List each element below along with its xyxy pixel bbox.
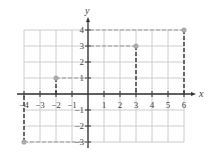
x-tick-label: 4 (150, 100, 155, 110)
x-tick-label: 6 (182, 100, 187, 110)
coordinate-plane-chart: xy−4−3−2−11234564321−1−2−3 (0, 0, 208, 157)
x-axis-arrow-icon (191, 92, 196, 96)
y-tick-label: −2 (74, 121, 84, 131)
data-point (53, 75, 58, 80)
x-tick-label: −2 (51, 100, 61, 110)
x-tick-label: −3 (35, 100, 45, 110)
x-tick-label: 3 (134, 100, 139, 110)
x-tick-label: 5 (166, 100, 171, 110)
x-tick-label: 1 (102, 100, 107, 110)
x-tick-label: 2 (118, 100, 123, 110)
data-point (133, 43, 138, 48)
y-tick-label: 3 (80, 41, 85, 51)
data-point (181, 27, 186, 32)
y-axis-arrow-icon (86, 17, 90, 22)
data-point (21, 139, 26, 144)
y-tick-label: 4 (80, 25, 85, 35)
y-tick-label: 2 (80, 57, 85, 67)
x-axis-label: x (198, 88, 204, 99)
y-axis-label: y (84, 5, 90, 16)
y-tick-label: −1 (74, 105, 84, 115)
